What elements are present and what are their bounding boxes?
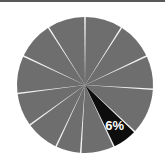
chart-plot-area: 6% — [0, 0, 165, 163]
pie-svg-canvas: 6% — [0, 0, 165, 163]
pie-slice-label: 6% — [105, 118, 124, 133]
pie-chart-figure: 6% — [0, 0, 165, 163]
pie-labels-group: 6% — [105, 118, 124, 133]
pie-slices-group — [17, 17, 153, 153]
